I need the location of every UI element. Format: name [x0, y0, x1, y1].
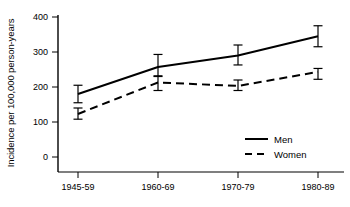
- x-tick-label-1: 1960-69: [141, 182, 174, 192]
- error-bar-men-0: [74, 85, 83, 103]
- error-bar-men-1: [154, 54, 163, 76]
- y-axis-title: Incidence per 100,000 person-years: [5, 18, 16, 167]
- legend: Men Women: [245, 134, 307, 160]
- line-chart: Incidence per 100,000 person-years 400 3…: [0, 0, 350, 207]
- legend-label-women: Women: [274, 149, 307, 160]
- y-tick-label-400: 400: [33, 12, 48, 22]
- series-line-women: [78, 72, 318, 114]
- series-layer: [74, 26, 323, 119]
- y-tick-label-200: 200: [33, 82, 48, 92]
- x-tick-label-3: 1980-89: [301, 182, 334, 192]
- legend-label-men: Men: [274, 134, 292, 145]
- error-bar-women-3: [314, 68, 323, 79]
- x-axis-ticks: [78, 172, 318, 178]
- y-tick-label-100: 100: [33, 117, 48, 127]
- y-tick-label-0: 0: [43, 152, 48, 162]
- x-tick-label-2: 1970-79: [221, 182, 254, 192]
- x-tick-label-0: 1945-59: [61, 182, 94, 192]
- y-axis-ticks: [52, 17, 58, 157]
- y-tick-label-300: 300: [33, 47, 48, 57]
- series-line-men: [78, 36, 318, 94]
- chart-container: Incidence per 100,000 person-years 400 3…: [0, 0, 350, 207]
